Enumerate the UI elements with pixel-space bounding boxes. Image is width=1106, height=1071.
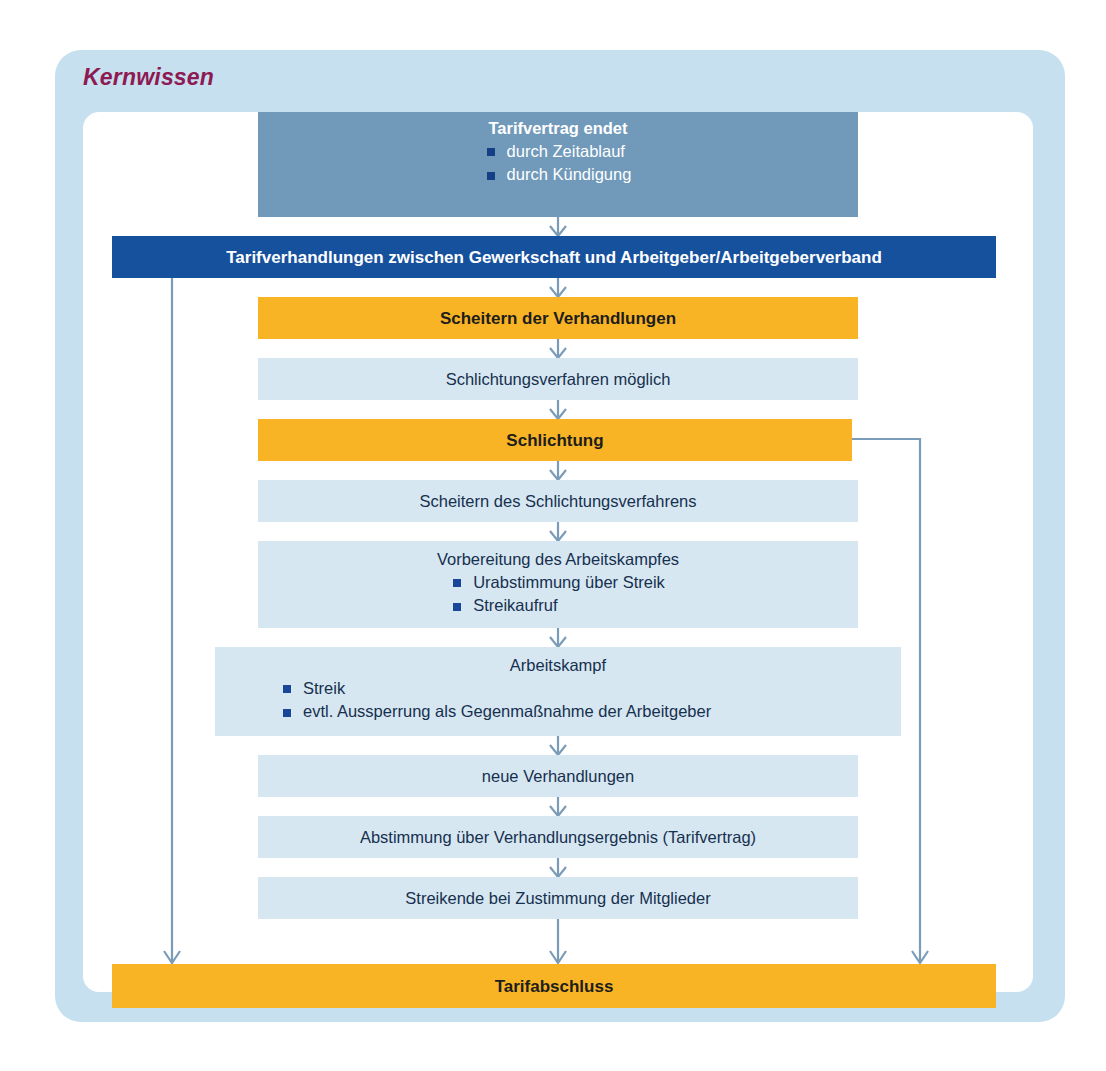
node-title: Abstimmung über Verhandlungsergebnis (Ta…: [266, 826, 850, 849]
edge-arrowhead-n4-n5: [550, 409, 566, 419]
edge-arrowhead-bypass-left: [164, 951, 180, 963]
node-abstimmung-verhandlungsergebnis: Abstimmung über Verhandlungsergebnis (Ta…: [258, 816, 858, 858]
edge-arrowhead-n7-n8: [550, 637, 566, 647]
node-bullets: Streik evtl. Aussperrung als Gegenmaßnah…: [281, 677, 711, 724]
node-schlichtungsverfahren-moeglich: Schlichtungsverfahren möglich: [258, 358, 858, 400]
node-title: Tarifvertrag endet: [266, 117, 850, 140]
node-title: Tarifverhandlungen zwischen Gewerkschaft…: [120, 246, 988, 269]
node-tarifvertrag-endet: Tarifvertrag endet durch Zeitablauf durc…: [258, 112, 858, 217]
node-streikende-bei-zustimmung: Streikende bei Zustimmung der Mitglieder: [258, 877, 858, 919]
bullet-item: durch Kündigung: [485, 163, 632, 186]
node-neue-verhandlungen: neue Verhandlungen: [258, 755, 858, 797]
node-bullets: Urabstimmung über Streik Streikaufruf: [451, 571, 665, 618]
node-title: Scheitern des Schlichtungsverfahrens: [266, 490, 850, 513]
node-title: Tarifabschluss: [120, 975, 988, 998]
edge-arrowhead-n9-n10: [550, 806, 566, 816]
bullet-item: Streikaufruf: [451, 594, 665, 617]
bullet-item: durch Zeitablauf: [485, 140, 632, 163]
node-bullets: durch Zeitablauf durch Kündigung: [485, 140, 632, 187]
node-title: Vorbereitung des Arbeitskampfes: [266, 548, 850, 571]
node-bullet-wrap: durch Zeitablauf durch Kündigung: [266, 140, 850, 187]
node-bullet-wrap: Streik evtl. Aussperrung als Gegenmaßnah…: [223, 677, 893, 724]
bullet-item: Urabstimmung über Streik: [451, 571, 665, 594]
edge-arrowhead-n8-n9: [550, 745, 566, 755]
node-title: Arbeitskampf: [223, 654, 893, 677]
panel-title: Kernwissen: [83, 64, 214, 91]
edge-arrowhead-n10-n11: [550, 867, 566, 877]
diagram-canvas-wrapper: Tarifvertrag endet durch Zeitablauf durc…: [83, 112, 1033, 992]
edge-arrowhead-n6-n7: [550, 531, 566, 541]
node-tarifabschluss: Tarifabschluss: [112, 964, 996, 1008]
node-title: Scheitern der Verhandlungen: [266, 307, 850, 330]
edge-arrowhead-bypass-right: [912, 951, 928, 963]
bullet-item: Streik: [281, 677, 711, 700]
node-vorbereitung-des-arbeitskampfes: Vorbereitung des Arbeitskampfes Urabstim…: [258, 541, 858, 628]
node-scheitern-des-schlichtungsverfahrens: Scheitern des Schlichtungsverfahrens: [258, 480, 858, 522]
node-scheitern-der-verhandlungen: Scheitern der Verhandlungen: [258, 297, 858, 339]
node-arbeitskampf: Arbeitskampf Streik evtl. Aussperrung al…: [215, 647, 901, 736]
edge-arrowhead-n3-n4: [550, 348, 566, 358]
edge-arrowhead-n1-n2: [550, 226, 566, 236]
edge-arrowhead-n5-n6: [550, 470, 566, 480]
node-title: Streikende bei Zustimmung der Mitglieder: [266, 887, 850, 910]
node-title: Schlichtungsverfahren möglich: [266, 368, 850, 391]
node-schlichtung: Schlichtung: [258, 419, 852, 461]
kernwissen-panel: Kernwissen: [55, 50, 1065, 1022]
node-title: neue Verhandlungen: [266, 765, 850, 788]
node-bullet-wrap: Urabstimmung über Streik Streikaufruf: [266, 571, 850, 618]
edge-arrowhead-n2-n3: [550, 287, 566, 297]
bullet-item: evtl. Aussperrung als Gegenmaßnahme der …: [281, 700, 711, 723]
node-title: Schlichtung: [266, 429, 844, 452]
node-tarifverhandlungen: Tarifverhandlungen zwischen Gewerkschaft…: [112, 236, 996, 278]
edge-arrowhead-n11-n12: [550, 951, 566, 963]
flowchart: Tarifvertrag endet durch Zeitablauf durc…: [83, 112, 1033, 992]
